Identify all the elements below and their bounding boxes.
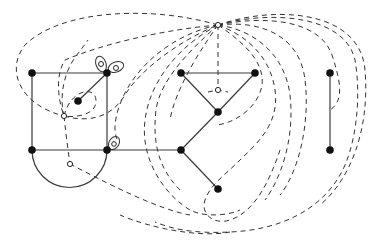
vertex-H bbox=[214, 108, 222, 116]
vertex-K bbox=[326, 69, 334, 77]
hollow-vertex-square bbox=[61, 113, 66, 118]
vertex-G bbox=[251, 69, 259, 77]
dashed-curves bbox=[16, 13, 365, 233]
graph-diagram bbox=[0, 0, 370, 246]
graph-edges bbox=[32, 73, 330, 189]
hollow-vertex-top bbox=[215, 22, 220, 27]
vertex-I bbox=[177, 146, 185, 154]
hollow-vertex-triangle bbox=[215, 87, 220, 92]
vertex-D bbox=[103, 146, 111, 154]
vertex-E bbox=[74, 97, 82, 105]
semicircle-edge bbox=[32, 150, 107, 188]
vertex-B bbox=[103, 69, 111, 77]
vertex-L bbox=[326, 146, 334, 154]
vertex-C bbox=[28, 146, 36, 154]
hollow-vertex-semicircle bbox=[67, 161, 72, 166]
vertex-A bbox=[28, 69, 36, 77]
vertex-F bbox=[177, 69, 185, 77]
vertex-J bbox=[214, 185, 222, 193]
